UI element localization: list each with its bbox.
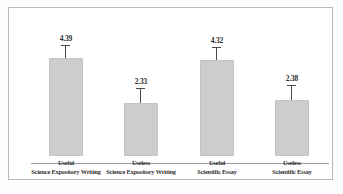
x-axis-label-3-line1: Useful (174, 159, 260, 168)
x-axis-label-1-line2: Science Expository Writing (23, 168, 109, 177)
x-axis-label-2-line2: Science Expository Writing (98, 168, 184, 177)
value-label-2: 2.33 (106, 78, 176, 86)
x-axis-label-4-line2: Scientific Essay (249, 168, 335, 177)
x-axis-label-4: Useless Scientific Essay (249, 159, 335, 176)
bar-group-2: 2.33 (106, 8, 176, 156)
error-cap-top-3 (212, 47, 221, 48)
bar-group-1: 4.39 (31, 8, 101, 156)
bar-useless-science-expository-writing (124, 103, 158, 156)
bar-useful-scientific-essay (200, 60, 234, 156)
x-axis-label-3: Useful Scientific Essay (174, 159, 260, 176)
x-axis-label-1: Useful Science Expository Writing (23, 159, 109, 176)
bar-group-3: 4.32 (182, 8, 252, 156)
category-axis-labels: Useful Science Expository Writing Useles… (9, 159, 332, 181)
error-cap-top-1 (61, 45, 70, 46)
bar-useful-science-expository-writing (49, 58, 83, 156)
error-cap-top-2 (136, 88, 145, 89)
bar-useless-scientific-essay (275, 100, 309, 156)
plot-area: 4.39 2.33 4.32 2. (9, 8, 332, 156)
x-axis-label-3-line2: Scientific Essay (174, 168, 260, 177)
value-label-1: 4.39 (31, 35, 101, 43)
figure-canvas: 4.39 2.33 4.32 2. (0, 0, 343, 194)
x-axis-label-1-line1: Useful (23, 159, 109, 168)
bar-group-4: 2.38 (257, 8, 327, 156)
error-cap-top-4 (287, 85, 296, 86)
x-axis-label-2-line1: Useless (98, 159, 184, 168)
x-axis-label-2: Useless Science Expository Writing (98, 159, 184, 176)
value-label-3: 4.32 (182, 37, 252, 45)
x-axis-label-4-line1: Useless (249, 159, 335, 168)
value-label-4: 2.38 (257, 75, 327, 83)
